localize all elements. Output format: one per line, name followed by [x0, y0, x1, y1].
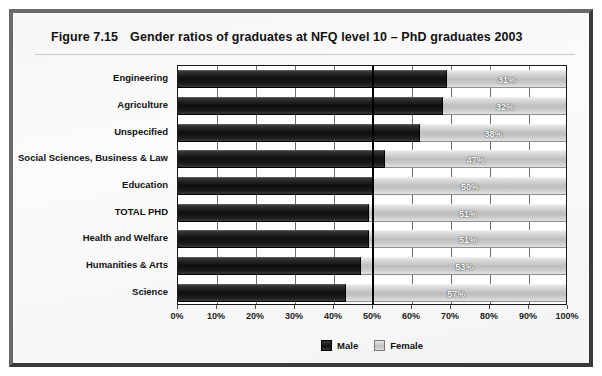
axis-tick	[567, 305, 568, 309]
bar-segment-male	[178, 97, 443, 115]
axis-tick-label: 80%	[480, 311, 498, 321]
gridline	[372, 66, 374, 304]
category-label: Education	[122, 176, 168, 194]
category-label: Social Sciences, Business & Law	[18, 149, 168, 167]
axis-tick	[333, 305, 334, 309]
axis-tick-label: 20%	[246, 311, 264, 321]
axis-tick-label: 40%	[324, 311, 342, 321]
bar-segment-male	[178, 284, 346, 302]
chart-area: EngineeringAgricultureUnspecifiedSocial …	[13, 57, 589, 363]
legend-item: Female	[374, 340, 423, 351]
axis-tick	[216, 305, 217, 309]
bar-segment-female: 31%	[447, 70, 567, 88]
axis-tick-label: 70%	[441, 311, 459, 321]
bar-segment-female: 38%	[420, 124, 567, 142]
axis-tick-label: 90%	[519, 311, 537, 321]
bar-segment-female: 47%	[385, 150, 567, 168]
bar-segment-male	[178, 177, 373, 195]
axis-tick-label: 10%	[207, 311, 225, 321]
axis-tick	[528, 305, 529, 309]
bar-segment-female: 57%	[346, 284, 567, 302]
figure-number: Figure 7.15	[51, 30, 118, 44]
axis-tick-label: 100%	[555, 311, 578, 321]
bar-segment-female: 51%	[369, 230, 567, 248]
chart-legend: MaleFemale	[177, 335, 567, 355]
figure-title: Figure 7.15Gender ratios of graduates at…	[51, 30, 523, 44]
legend-label: Male	[337, 340, 358, 351]
bar-segment-female: 51%	[369, 204, 567, 222]
axis-tick-label: 30%	[285, 311, 303, 321]
axis-tick	[177, 305, 178, 309]
bar-segment-male	[178, 124, 420, 142]
figure-frame: Figure 7.15Gender ratios of graduates at…	[9, 9, 593, 367]
bar-segment-female: 50%	[373, 177, 567, 195]
bar-segment-male	[178, 150, 385, 168]
bar-value-label: 53%	[361, 258, 567, 276]
category-label: Engineering	[113, 69, 168, 87]
bar-segment-male	[178, 257, 361, 275]
axis-tick	[489, 305, 490, 309]
bar-segment-male	[178, 230, 369, 248]
bar-value-label: 50%	[373, 178, 567, 196]
bar-segment-male	[178, 70, 447, 88]
legend-item: Male	[321, 340, 358, 351]
axis-tick-label: 0%	[170, 311, 183, 321]
figure-title-text: Gender ratios of graduates at NFQ level …	[130, 30, 523, 44]
category-label: Science	[132, 283, 168, 301]
legend-swatch-male	[321, 340, 332, 351]
bar-segment-female: 53%	[361, 257, 567, 275]
axis-tick	[450, 305, 451, 309]
plot-area: 31%32%38%47%50%51%51%53%57%	[177, 65, 567, 305]
bar-segment-female: 32%	[443, 97, 567, 115]
category-label: Unspecified	[114, 123, 168, 141]
bar-value-label: 32%	[443, 98, 567, 116]
axis-tick-label: 50%	[363, 311, 381, 321]
x-axis: 0%10%20%30%40%50%60%70%80%90%100%	[177, 305, 567, 331]
axis-tick	[411, 305, 412, 309]
category-label: Agriculture	[117, 96, 168, 114]
figure-panel: Figure 7.15Gender ratios of graduates at…	[13, 13, 589, 363]
bar-value-label: 31%	[447, 71, 567, 89]
legend-swatch-female	[374, 340, 385, 351]
bar-value-label: 51%	[369, 205, 567, 223]
legend-label: Female	[390, 340, 423, 351]
category-axis-labels: EngineeringAgricultureUnspecifiedSocial …	[13, 65, 168, 305]
category-label: Health and Welfare	[83, 229, 168, 247]
bar-value-label: 51%	[369, 231, 567, 249]
title-divider	[35, 54, 575, 55]
axis-tick-label: 60%	[402, 311, 420, 321]
bar-value-label: 47%	[385, 151, 567, 169]
category-label: Humanities & Arts	[86, 256, 168, 274]
axis-tick	[294, 305, 295, 309]
bar-value-label: 57%	[346, 285, 567, 303]
bar-segment-male	[178, 204, 369, 222]
axis-tick	[255, 305, 256, 309]
axis-tick	[372, 305, 373, 309]
category-label: TOTAL PHD	[115, 203, 168, 221]
bar-value-label: 38%	[420, 125, 567, 143]
figure-screenshot: Figure 7.15Gender ratios of graduates at…	[0, 0, 602, 376]
